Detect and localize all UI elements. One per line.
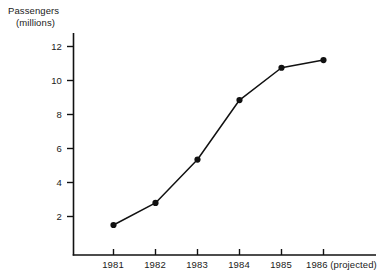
data-point-1981 xyxy=(110,222,116,228)
data-point-1983 xyxy=(194,156,200,162)
data-point-1986 xyxy=(320,57,326,63)
data-point-1984 xyxy=(236,97,242,103)
x-axis-ticks xyxy=(114,249,324,255)
data-point-1982 xyxy=(152,200,158,206)
x-tick-label-1984: 1984 xyxy=(228,259,250,270)
x-tick-label-1983: 1983 xyxy=(186,259,208,270)
y-axis-ticks xyxy=(67,47,74,217)
y-tick-label-8: 8 xyxy=(42,109,62,120)
line-chart: Passengers (millions) 12 10 8 6 4 2 xyxy=(0,0,382,278)
x-tick-label-1982: 1982 xyxy=(144,259,166,270)
x-tick-label-1986-projected: 1986 (projected) xyxy=(306,259,377,270)
data-point-markers xyxy=(110,57,326,228)
data-line-passengers xyxy=(114,60,324,225)
x-tick-label-1981: 1981 xyxy=(102,259,124,270)
y-tick-label-6: 6 xyxy=(42,143,62,154)
x-tick-label-1985: 1985 xyxy=(270,259,292,270)
data-point-1985 xyxy=(278,65,284,71)
y-tick-label-10: 10 xyxy=(42,75,62,86)
y-tick-label-4: 4 xyxy=(42,177,62,188)
y-tick-label-2: 2 xyxy=(42,211,62,222)
y-tick-label-12: 12 xyxy=(42,41,62,52)
